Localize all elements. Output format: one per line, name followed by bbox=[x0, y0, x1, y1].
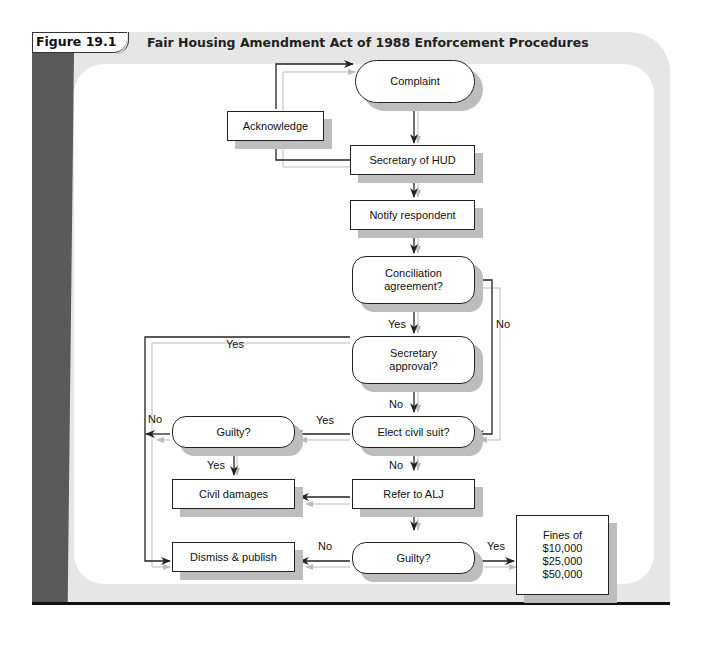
edge-label-civil-suit-yes: Yes bbox=[316, 414, 334, 426]
edge-label-guilty-alj-yes: Yes bbox=[487, 540, 505, 552]
node-guilty-civil-label: Guilty? bbox=[216, 426, 250, 439]
node-secretary-hud-label: Secretary of HUD bbox=[369, 154, 455, 167]
node-complaint: Complaint bbox=[355, 60, 475, 103]
edge-label-approval-no: No bbox=[389, 398, 403, 410]
node-guilty-civil: Guilty? bbox=[172, 416, 295, 448]
node-refer-alj: Refer to ALJ bbox=[352, 479, 475, 509]
edge-label-guilty-civil-no: No bbox=[148, 413, 162, 425]
node-conciliation-label: Conciliation agreement? bbox=[384, 267, 443, 293]
node-elect-civil-suit: Elect civil suit? bbox=[352, 416, 475, 448]
node-guilty-alj-label: Guilty? bbox=[396, 552, 430, 565]
node-conciliation-agreement: Conciliation agreement? bbox=[352, 256, 475, 304]
node-civil-damages: Civil damages bbox=[172, 479, 295, 509]
node-guilty-alj: Guilty? bbox=[352, 542, 475, 574]
node-civil-damages-label: Civil damages bbox=[199, 488, 268, 501]
node-dismiss-publish-label: Dismiss & publish bbox=[190, 551, 277, 564]
node-dismiss-publish: Dismiss & publish bbox=[172, 542, 295, 572]
node-fines: Fines of $10,000 $25,000 $50,000 bbox=[516, 515, 609, 595]
node-acknowledge: Acknowledge bbox=[227, 111, 324, 141]
node-secretary-hud: Secretary of HUD bbox=[350, 145, 475, 175]
node-complaint-label: Complaint bbox=[390, 75, 440, 88]
edge-label-conciliation-no: No bbox=[496, 318, 510, 330]
node-refer-alj-label: Refer to ALJ bbox=[383, 488, 444, 501]
node-notify-respondent-label: Notify respondent bbox=[369, 209, 455, 222]
node-acknowledge-label: Acknowledge bbox=[243, 120, 308, 133]
node-elect-civil-suit-label: Elect civil suit? bbox=[377, 426, 449, 439]
node-fines-label: Fines of $10,000 $25,000 $50,000 bbox=[543, 529, 583, 581]
edge-label-civil-suit-no: No bbox=[389, 459, 403, 471]
edge-label-conciliation-yes: Yes bbox=[388, 318, 406, 330]
edge-label-guilty-alj-no: No bbox=[318, 540, 332, 552]
edge-label-approval-yes: Yes bbox=[226, 338, 244, 350]
node-secretary-approval: Secretary approval? bbox=[352, 336, 475, 384]
edge-label-guilty-civil-yes: Yes bbox=[207, 459, 225, 471]
node-notify-respondent: Notify respondent bbox=[350, 200, 475, 230]
node-secretary-approval-label: Secretary approval? bbox=[389, 347, 437, 373]
